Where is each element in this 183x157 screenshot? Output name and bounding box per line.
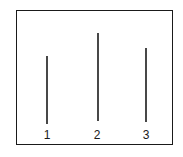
line-1-label: 1 (44, 128, 51, 142)
line-comparison-diagram: 1 2 3 (0, 0, 183, 157)
line-2-label: 2 (94, 128, 101, 142)
line-3-label: 3 (143, 128, 150, 142)
